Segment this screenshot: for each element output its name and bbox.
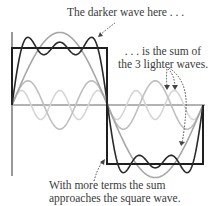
arrowhead-icon (164, 85, 170, 90)
more-terms-annotation: With more terms the sum approaches the s… (49, 179, 181, 205)
darker-wave-annotation: The darker wave here . . . (67, 6, 184, 19)
sum-annotation-line1: . . . is the sum of (118, 45, 208, 58)
arrowhead-icon (172, 85, 178, 90)
arrow-darker-wave (100, 23, 115, 35)
sum-annotation: . . . is the sum of the 3 lighter waves. (118, 45, 208, 71)
fourier-diagram (0, 0, 217, 206)
sum-annotation-line2: the 3 lighter waves. (118, 58, 208, 71)
more-terms-line1: With more terms the sum (49, 179, 181, 192)
more-terms-line2: approaches the square wave. (49, 192, 181, 205)
arrowhead-icon (179, 141, 185, 146)
